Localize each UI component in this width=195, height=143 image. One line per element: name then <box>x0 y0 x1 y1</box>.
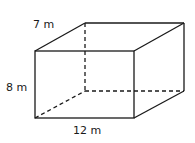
top-right-edge <box>134 23 184 51</box>
length-label: 12 m <box>73 124 101 137</box>
depth-label: 7 m <box>33 18 54 31</box>
height-label: 8 m <box>6 81 27 94</box>
bottom-right-edge <box>134 91 184 118</box>
hidden-edge-diagonal <box>35 91 85 118</box>
rectangular-prism-diagram: 7 m 8 m 12 m <box>0 0 195 143</box>
